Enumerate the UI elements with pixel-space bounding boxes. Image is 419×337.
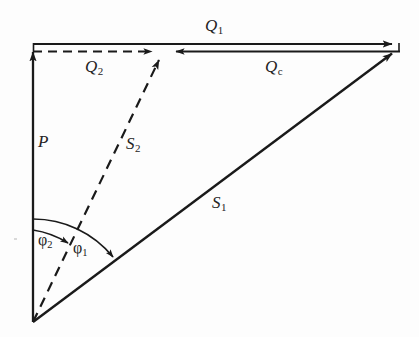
label-phi2-subscript: 2 <box>47 239 52 250</box>
label-s1-subscript: 1 <box>221 201 227 213</box>
label-q1-subscript: 1 <box>217 24 223 36</box>
label-phi1-subscript: 1 <box>82 247 87 258</box>
label-qc-subscript: c <box>277 65 282 77</box>
label-q1: Q1 <box>205 17 223 36</box>
label-s2-subscript: 2 <box>135 142 141 154</box>
label-p: P <box>38 133 48 150</box>
label-phi2: φ2 <box>38 232 52 250</box>
label-qc: Qc <box>265 58 283 77</box>
scan-speck <box>14 238 17 240</box>
label-s2: S2 <box>126 135 141 154</box>
label-q2: Q2 <box>85 58 103 77</box>
vector-s1 <box>33 54 392 323</box>
label-q2-subscript: 2 <box>97 65 103 77</box>
label-phi1: φ1 <box>73 240 87 258</box>
phasor-diagram-canvas <box>0 0 419 337</box>
label-s1: S1 <box>212 194 227 213</box>
phasor-diagram: Q1 Q2 Qc P S2 S1 φ2 φ1 <box>0 0 419 337</box>
vector-s2 <box>33 60 159 322</box>
